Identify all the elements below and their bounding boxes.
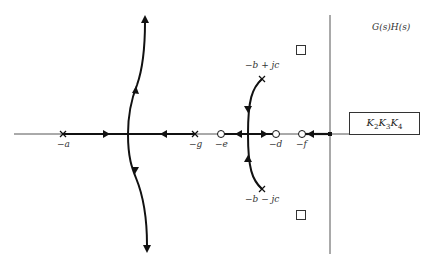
gain-box: K2 K3 K4 bbox=[349, 112, 420, 135]
zero-marker-d bbox=[273, 131, 280, 138]
locus-branch-upper-left bbox=[128, 22, 145, 134]
origin-marker bbox=[328, 132, 332, 136]
pole-marker-lower-complex bbox=[259, 186, 265, 192]
arrow-icon bbox=[307, 130, 314, 138]
transfer-function-title: G(s)H(s) bbox=[372, 22, 410, 32]
label-minus-g: −g bbox=[189, 139, 202, 149]
zero-marker-e bbox=[218, 131, 225, 138]
gain-k2: K2 bbox=[367, 117, 379, 131]
arrow-icon bbox=[103, 130, 110, 138]
label-complex-pole-lower: −b − jc bbox=[245, 194, 279, 204]
label-minus-f: −f bbox=[296, 139, 307, 149]
arrow-icon bbox=[261, 130, 268, 138]
gain-k3: K3 bbox=[379, 117, 391, 131]
label-minus-e: −e bbox=[215, 139, 228, 149]
gain-k4: K4 bbox=[390, 117, 402, 131]
arrow-icon bbox=[132, 86, 139, 94]
pole-marker-upper-complex bbox=[259, 76, 265, 82]
arrow-icon bbox=[141, 15, 149, 23]
label-minus-a: −a bbox=[57, 139, 70, 149]
arrow-icon bbox=[143, 245, 151, 253]
label-minus-d: −d bbox=[269, 139, 282, 149]
upper-square bbox=[296, 45, 306, 55]
lower-square bbox=[296, 210, 306, 220]
arrow-icon bbox=[160, 130, 167, 138]
locus-branch-lower-left bbox=[128, 134, 147, 245]
arrow-icon bbox=[244, 155, 252, 162]
label-complex-pole-upper: −b + jc bbox=[245, 60, 279, 70]
zero-marker-f bbox=[299, 131, 306, 138]
arrow-icon bbox=[235, 130, 242, 138]
arrow-icon bbox=[244, 106, 252, 113]
